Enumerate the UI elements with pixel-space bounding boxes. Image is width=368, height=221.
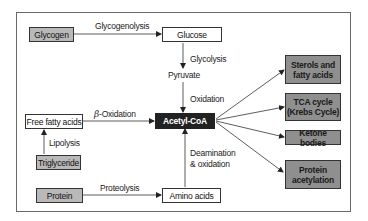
arrow-acetylcoa-tca — [216, 107, 284, 120]
label-lipolysis: Lipolysis — [49, 138, 80, 148]
label-deamination-line2: & oxidation — [190, 159, 236, 170]
node-acetyl-coa: Acetyl-CoA — [155, 113, 215, 129]
node-triglyceride: Triglyceride — [36, 155, 81, 170]
arrow-acetylcoa-ketone — [216, 121, 284, 137]
node-glucose: Glucose — [162, 27, 222, 42]
label-beta-oxidation: β-Oxidation — [94, 109, 136, 119]
node-tca-cycle: TCA cycle (Krebs Cycle) — [285, 93, 341, 121]
node-sterols-line2: fatty acids — [293, 70, 333, 80]
node-pyruvate: Pyruvate — [168, 70, 200, 80]
node-protein: Protein — [36, 188, 83, 203]
node-amino-acids-label: Amino acids — [169, 191, 213, 201]
node-sterols-line1: Sterols and — [291, 60, 335, 70]
node-protein-acetylation-line2: acetylation — [292, 175, 334, 185]
metabolism-diagram: Glycogen Glucose Pyruvate Acetyl-CoA Fre… — [0, 0, 368, 221]
label-proteolysis: Proteolysis — [100, 183, 139, 193]
node-glucose-label: Glucose — [177, 30, 207, 40]
node-free-fatty-acids: Free fatty acids — [25, 114, 83, 129]
arrow-acetylcoa-sterols — [216, 70, 284, 119]
label-glycolysis: Glycolysis — [190, 54, 226, 64]
node-tca-line1: TCA cycle — [294, 97, 333, 107]
node-triglyceride-label: Triglyceride — [38, 158, 79, 168]
node-ketone-bodies: Ketone bodies — [285, 130, 341, 145]
node-amino-acids: Amino acids — [162, 188, 221, 203]
node-glycogen-label: Glycogen — [34, 30, 68, 40]
node-glycogen: Glycogen — [29, 27, 74, 42]
node-tca-line2: (Krebs Cycle) — [287, 107, 339, 117]
node-sterols-fatty-acids: Sterols and fatty acids — [285, 55, 341, 84]
label-glycogenolysis: Glycogenolysis — [95, 21, 149, 31]
node-protein-acetylation: Protein acetylation — [285, 160, 341, 189]
node-ffa-label: Free fatty acids — [27, 117, 82, 127]
node-protein-acetylation-line1: Protein — [299, 165, 327, 175]
beta-oxidation-text: -Oxidation — [99, 109, 136, 119]
label-oxidation: Oxidation — [190, 94, 224, 104]
node-acetyl-coa-label: Acetyl-CoA — [163, 116, 207, 126]
label-deamination: Deamination & oxidation — [190, 148, 236, 170]
node-protein-label: Protein — [47, 191, 73, 201]
node-ketone-label: Ketone bodies — [286, 128, 340, 148]
label-deamination-line1: Deamination — [190, 148, 236, 159]
